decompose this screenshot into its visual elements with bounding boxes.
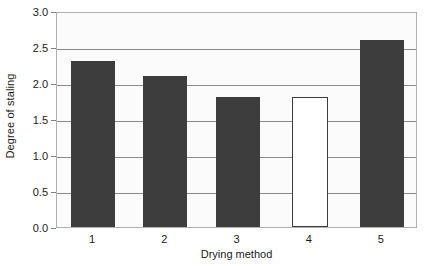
y-axis-title-label: Degree of staling bbox=[4, 74, 16, 159]
y-axis-tick-mark bbox=[51, 228, 56, 229]
y-axis-tick-mark bbox=[51, 12, 56, 13]
y-axis-tick-mark bbox=[51, 192, 56, 193]
y-axis-tick-mark bbox=[51, 84, 56, 85]
x-axis-tick-label: 1 bbox=[89, 232, 95, 246]
y-axis-tick-label: 2.0 bbox=[33, 79, 48, 90]
x-axis-title: Drying method bbox=[56, 248, 417, 260]
x-axis-tick-labels: 12345 bbox=[56, 232, 417, 248]
bar-5 bbox=[360, 40, 404, 227]
x-axis-tick-label: 5 bbox=[378, 232, 384, 246]
y-axis-tick-label: 2.5 bbox=[33, 43, 48, 54]
x-axis-tick-label: 4 bbox=[306, 232, 312, 246]
y-axis-tick-label: 3.0 bbox=[33, 7, 48, 18]
bars-layer bbox=[57, 13, 416, 227]
bar-chart: Degree of staling 0.00.51.01.52.02.53.0 … bbox=[0, 0, 435, 266]
x-axis-tick-label: 2 bbox=[161, 232, 167, 246]
y-axis-tick-label: 0.0 bbox=[33, 223, 48, 234]
y-axis-tick-label: 1.0 bbox=[33, 151, 48, 162]
y-axis-tick-mark bbox=[51, 48, 56, 49]
bar-4 bbox=[292, 97, 328, 227]
bar-2 bbox=[143, 76, 187, 227]
y-axis-tick-mark bbox=[51, 156, 56, 157]
x-axis-tick-label: 3 bbox=[233, 232, 239, 246]
y-axis-tick-labels: 0.00.51.01.52.02.53.0 bbox=[20, 12, 52, 228]
bar-1 bbox=[71, 61, 115, 227]
y-axis-tick-label: 1.5 bbox=[33, 115, 48, 126]
y-axis-tick-label: 0.5 bbox=[33, 187, 48, 198]
bar-3 bbox=[216, 97, 260, 227]
plot-area bbox=[56, 12, 417, 228]
y-axis-title: Degree of staling bbox=[0, 0, 20, 232]
y-axis-tick-mark bbox=[51, 120, 56, 121]
